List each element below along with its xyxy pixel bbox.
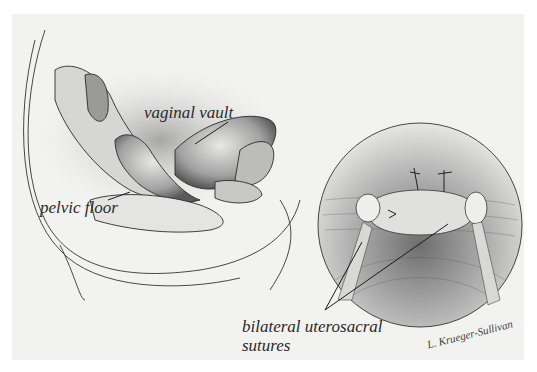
label-pelvic-floor: pelvic floor (40, 199, 118, 216)
suture-detail-inset (318, 123, 522, 327)
label-sutures-line2: sutures (242, 337, 291, 354)
label-vaginal-vault: vaginal vault (144, 104, 233, 121)
label-sutures-line1: bilateral uterosacral (242, 318, 383, 335)
